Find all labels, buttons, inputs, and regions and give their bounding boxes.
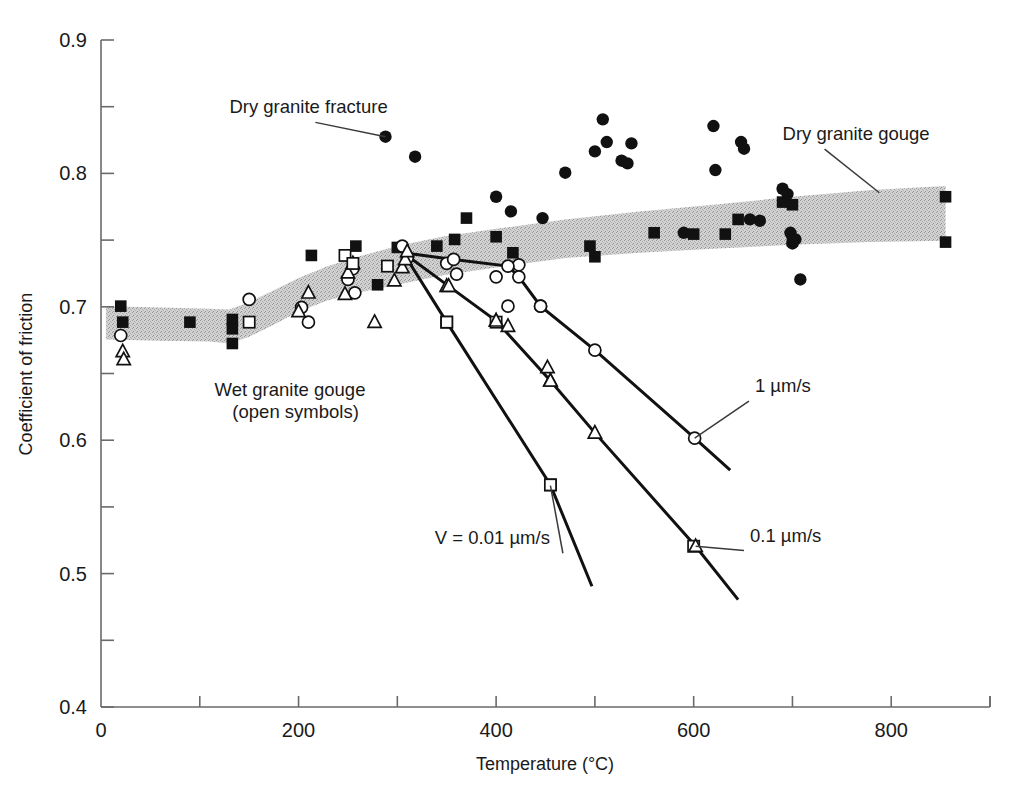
curve-symbol-open-circle [448, 253, 460, 265]
annotation-leader-line [315, 122, 385, 136]
data-point-filled-square [787, 235, 799, 247]
data-point-filled-square [372, 279, 384, 291]
curve-symbol-open-square [441, 317, 452, 328]
y-tick-label: 0.6 [59, 429, 87, 451]
curve-symbol-open-circle [513, 271, 525, 283]
data-point-filled-circle [559, 167, 571, 179]
data-point-filled-square [589, 251, 601, 263]
annotation-leader-line [695, 401, 749, 438]
data-point-filled-square [227, 338, 239, 350]
data-point-filled-square [584, 240, 596, 252]
x-tick-label: 600 [677, 719, 710, 741]
data-point-open-square [244, 317, 255, 328]
data-point-filled-circle [597, 113, 609, 125]
data-point-open-circle [115, 329, 127, 341]
annotation-label-wet-granite-gouge: Wet granite gouge [215, 379, 366, 400]
data-point-filled-square [117, 316, 129, 328]
x-tick-label: 0 [95, 719, 106, 741]
y-tick-label: 0.8 [59, 162, 87, 184]
curve-symbol-open-circle [535, 300, 547, 312]
data-point-open-circle [243, 293, 255, 305]
data-point-open-triangle [368, 315, 381, 327]
annotation-leader-line [550, 486, 562, 554]
x-tick-label: 200 [282, 719, 315, 741]
y-tick-label: 0.9 [59, 29, 87, 51]
data-point-filled-square [490, 231, 502, 243]
y-tick-label: 0.5 [59, 563, 87, 585]
annotation-label-dry-granite-gouge: Dry granite gouge [783, 123, 930, 144]
annotation-label-velocity-1: 1 µm/s [755, 375, 811, 396]
data-point-open-square [347, 258, 358, 269]
data-point-filled-circle [707, 120, 719, 132]
data-point-filled-circle [625, 137, 637, 149]
data-point-filled-square [350, 240, 362, 252]
data-point-filled-square [115, 300, 127, 312]
data-point-filled-circle [490, 191, 502, 203]
data-point-filled-square [431, 240, 443, 252]
figure-container: 0.40.50.60.70.80.90200400600800 Dry gran… [0, 0, 1018, 801]
x-tick-label: 400 [479, 719, 512, 741]
data-point-filled-square [184, 316, 196, 328]
data-point-filled-circle [589, 145, 601, 157]
curve-symbol-layer [441, 253, 702, 551]
data-point-filled-square [787, 199, 799, 211]
data-point-filled-circle [601, 136, 613, 148]
data-point-filled-square [648, 227, 660, 239]
data-point-filled-circle [738, 143, 750, 155]
annotation-leader-line [825, 149, 880, 193]
annotation-label-velocity-0p01: V = 0.01 µm/s [435, 527, 550, 548]
data-point-open-triangle [541, 360, 554, 372]
data-point-filled-square [940, 236, 952, 248]
data-point-filled-square [507, 247, 519, 259]
annotation-leader-line [696, 546, 744, 550]
data-point-open-circle [451, 268, 463, 280]
data-point-filled-square [940, 191, 952, 203]
data-point-filled-square [732, 214, 744, 226]
y-axis-title: Coefficient of friction [16, 293, 36, 456]
data-point-open-triangle [501, 319, 514, 331]
curve-symbol-open-circle [589, 344, 601, 356]
x-axis-title: Temperature (°C) [476, 754, 614, 774]
data-point-open-circle [302, 316, 314, 328]
data-point-filled-square [719, 228, 731, 240]
data-point-filled-square [306, 250, 318, 262]
data-point-filled-square [227, 323, 239, 335]
curve-symbol-open-circle [502, 260, 514, 272]
y-tick-label: 0.7 [59, 296, 87, 318]
data-point-filled-circle [505, 205, 517, 217]
data-point-open-square [382, 261, 393, 272]
data-point-filled-circle [409, 151, 421, 163]
data-point-open-circle [490, 271, 502, 283]
annotation-label-velocity-0p1: 0.1 µm/s [750, 525, 821, 546]
x-tick-label: 800 [875, 719, 908, 741]
data-point-filled-circle [794, 273, 806, 285]
annotation-label-wet-granite-gouge-sub: (open symbols) [232, 401, 358, 422]
annotation-layer: Dry granite fractureDry granite gougeWet… [215, 96, 930, 553]
data-point-filled-square [461, 212, 473, 224]
data-point-filled-square [688, 228, 700, 240]
scatter-plot: 0.40.50.60.70.80.90200400600800 Dry gran… [0, 0, 1018, 801]
data-point-filled-circle [621, 157, 633, 169]
data-point-filled-circle [709, 164, 721, 176]
data-point-filled-circle [536, 212, 548, 224]
annotation-label-dry-granite-fracture: Dry granite fracture [229, 96, 387, 117]
data-point-filled-circle [754, 215, 766, 227]
data-point-filled-square [777, 196, 789, 208]
y-tick-label: 0.4 [59, 696, 87, 718]
data-point-filled-square [449, 234, 461, 246]
data-point-open-circle [502, 300, 514, 312]
